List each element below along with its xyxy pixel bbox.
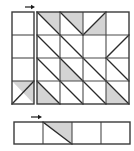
quilt-cell[interactable] <box>12 12 34 35</box>
quilt-cell[interactable] <box>106 12 129 35</box>
quilt-cell[interactable] <box>72 122 101 144</box>
quilt-cell[interactable] <box>12 35 34 58</box>
quilt-cell[interactable] <box>14 122 43 144</box>
main-quilt-grid[interactable] <box>37 12 129 104</box>
bottom-horizontal-strip[interactable] <box>14 122 130 144</box>
quilt-cell[interactable] <box>83 35 106 58</box>
quilt-cell[interactable] <box>101 122 130 144</box>
quilt-diagram <box>0 0 134 151</box>
left-vertical-strip[interactable] <box>12 12 34 104</box>
quilt-diagram-canvas <box>0 0 134 151</box>
quilt-cell[interactable] <box>12 58 34 81</box>
